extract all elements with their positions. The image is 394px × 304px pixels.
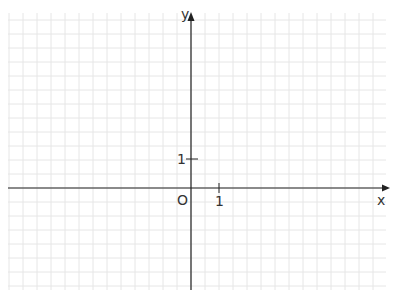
origin-label: O <box>177 193 188 207</box>
x-axis-label: x <box>377 193 385 207</box>
grid-lines <box>8 13 386 290</box>
x-axis-arrow-icon <box>382 185 390 192</box>
y-tick-label: 1 <box>177 152 186 166</box>
coordinate-plane <box>0 0 394 304</box>
y-axis-label: y <box>181 7 189 21</box>
x-tick-label: 1 <box>215 194 224 208</box>
